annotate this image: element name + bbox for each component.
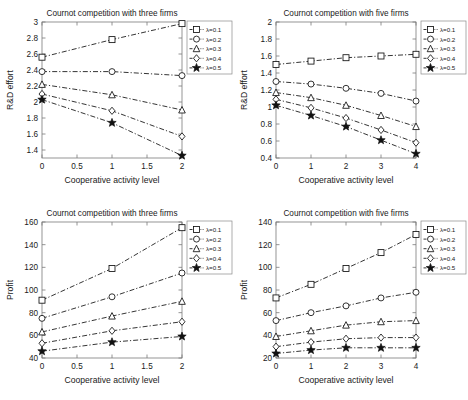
data-point-marker — [273, 79, 279, 85]
data-point-marker — [378, 318, 385, 325]
chart-top-left: Cournot competition with three firms00.5… — [0, 0, 234, 200]
legend-label: λ=0.4 — [440, 255, 456, 262]
data-point-marker — [109, 265, 115, 271]
chart-title-bottom-right: Cournot competition with five firms — [283, 209, 408, 218]
data-point-marker — [378, 295, 384, 301]
x-tick-label: 2 — [180, 162, 185, 171]
data-point-marker — [39, 69, 45, 75]
data-point-marker — [179, 73, 185, 79]
legend-label: λ=0.3 — [206, 245, 222, 252]
legend-marker-square — [428, 227, 434, 233]
y-tick-label: 100 — [258, 263, 272, 272]
legend-label: λ=0.5 — [206, 264, 222, 271]
x-tick-label: 1 — [110, 162, 115, 171]
data-point-marker — [343, 265, 349, 271]
legend-marker-circle — [428, 236, 434, 242]
y-tick-label: 3 — [33, 18, 38, 27]
y-tick-label: 2.8 — [27, 34, 39, 43]
legend-item-λ=0.1[interactable]: λ=0.1 — [424, 226, 456, 233]
data-point-marker — [307, 111, 315, 119]
x-tick-label: 2 — [344, 362, 349, 371]
legend-bottom-right[interactable]: λ=0.1λ=0.2λ=0.3λ=0.4λ=0.5 — [421, 221, 466, 274]
legend-item-λ=0.2[interactable]: λ=0.2 — [190, 236, 222, 243]
data-point-marker — [179, 270, 185, 276]
x-tick-label: 0.5 — [71, 362, 83, 371]
y-axis-label-bottom-left: Profit — [5, 279, 15, 300]
data-point-marker — [413, 139, 419, 146]
x-tick-label: 1.5 — [141, 362, 153, 371]
legend-top-right[interactable]: λ=0.1λ=0.2λ=0.3λ=0.4λ=0.5 — [421, 21, 466, 74]
legend-marker-square — [194, 27, 200, 33]
legend-item-λ=0.2[interactable]: λ=0.2 — [424, 36, 456, 43]
legend-label: λ=0.4 — [440, 55, 456, 62]
y-tick-label: 1.6 — [261, 52, 273, 61]
x-tick-label: 2 — [180, 362, 185, 371]
series-λ=0.5 — [38, 95, 186, 159]
panel-bottom-left: Cournot competition with three firms00.5… — [0, 200, 234, 400]
y-tick-label: 140 — [24, 241, 38, 250]
data-point-marker — [273, 318, 279, 324]
x-tick-label: 0 — [274, 162, 279, 171]
y-tick-label: 120 — [258, 241, 272, 250]
data-point-marker — [179, 21, 185, 27]
data-point-marker — [378, 250, 384, 256]
x-tick-label: 1 — [309, 162, 314, 171]
panel-top-right: Cournot competition with five firms01234… — [234, 0, 468, 200]
x-tick-label: 1.5 — [141, 162, 153, 171]
y-tick-label: 1.4 — [27, 146, 39, 155]
legend-marker-square — [428, 27, 434, 33]
data-point-marker — [378, 90, 384, 96]
y-tick-label: 60 — [263, 309, 273, 318]
x-tick-label: 0 — [40, 162, 45, 171]
legend-item-λ=0.1[interactable]: λ=0.1 — [424, 26, 456, 33]
x-tick-label: 1 — [110, 362, 115, 371]
x-tick-label: 4 — [414, 162, 419, 171]
chart-title-bottom-left: Cournot competition with three firms — [46, 209, 177, 218]
data-point-marker — [378, 126, 384, 133]
data-point-marker — [108, 118, 116, 126]
x-axis-label-top-left: Cooperative activity level — [64, 175, 159, 185]
series-λ=0.2 — [39, 69, 185, 79]
series-λ=0.5 — [38, 332, 186, 355]
y-tick-label: 100 — [24, 286, 38, 295]
series-line — [42, 228, 182, 301]
x-tick-label: 2 — [344, 162, 349, 171]
legend-label: λ=0.1 — [206, 226, 222, 233]
y-tick-label: 2 — [267, 18, 272, 27]
legend-label: λ=0.5 — [440, 264, 456, 271]
legend-marker-circle — [194, 236, 200, 242]
legend-label: λ=0.1 — [440, 26, 456, 33]
data-point-marker — [109, 69, 115, 75]
legend-bottom-left[interactable]: λ=0.1λ=0.2λ=0.3λ=0.4λ=0.5 — [187, 221, 232, 274]
y-tick-label: 0.8 — [261, 120, 273, 129]
y-tick-label: 2.2 — [27, 82, 39, 91]
x-tick-label: 4 — [414, 362, 419, 371]
y-tick-label: 140 — [258, 218, 272, 227]
legend-item-λ=0.1[interactable]: λ=0.1 — [190, 26, 222, 33]
legend-item-λ=0.2[interactable]: λ=0.2 — [190, 36, 222, 43]
legend-label: λ=0.2 — [206, 36, 222, 43]
y-tick-label: 40 — [263, 331, 273, 340]
panel-bottom-right: Cournot competition with five firms01234… — [234, 200, 468, 400]
y-tick-label: 1.2 — [261, 86, 273, 95]
data-point-marker — [179, 298, 186, 305]
y-tick-label: 60 — [29, 331, 39, 340]
legend-item-λ=0.2[interactable]: λ=0.2 — [424, 236, 456, 243]
legend-item-λ=0.1[interactable]: λ=0.1 — [190, 226, 222, 233]
x-tick-label: 3 — [379, 362, 384, 371]
data-point-marker — [308, 339, 314, 346]
x-tick-label: 1 — [309, 362, 314, 371]
series-λ=0.2 — [273, 289, 419, 323]
legend-label: λ=0.2 — [440, 236, 456, 243]
data-point-marker — [342, 122, 350, 130]
data-point-marker — [413, 51, 419, 57]
series-line — [42, 94, 182, 136]
legend-label: λ=0.2 — [440, 36, 456, 43]
data-point-marker — [308, 281, 314, 287]
y-tick-label: 1.4 — [261, 69, 273, 78]
y-tick-label: 20 — [263, 354, 273, 363]
data-point-marker — [109, 37, 115, 43]
chart-title-top-left: Cournot competition with three firms — [46, 9, 177, 18]
legend-top-left[interactable]: λ=0.1λ=0.2λ=0.3λ=0.4λ=0.5 — [187, 21, 232, 74]
data-point-marker — [343, 85, 349, 91]
